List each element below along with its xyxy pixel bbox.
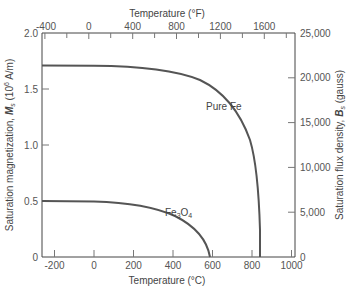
right-axis-ticks — [288, 78, 295, 212]
svg-text:15,000: 15,000 — [300, 117, 331, 128]
svg-text:200: 200 — [125, 260, 142, 271]
left-axis-ticks — [42, 89, 49, 201]
svg-text:10,000: 10,000 — [300, 162, 331, 173]
top-axis-labels: -400 0 400 800 1200 1600 — [36, 21, 276, 32]
pure-fe-label: Pure Fe — [206, 101, 242, 112]
svg-text:1.5: 1.5 — [24, 84, 38, 95]
bottom-axis-title: Temperature (°C) — [129, 275, 206, 286]
chart-canvas: -200 0 200 400 600 800 1000 Temperature … — [0, 0, 348, 288]
svg-text:800: 800 — [168, 21, 185, 32]
svg-text:400: 400 — [165, 260, 182, 271]
svg-text:2.0: 2.0 — [24, 28, 38, 39]
svg-text:800: 800 — [244, 260, 261, 271]
svg-text:400: 400 — [124, 21, 141, 32]
left-axis-labels: 0 0.5 1.0 1.5 2.0 — [24, 28, 38, 263]
svg-text:0.5: 0.5 — [24, 196, 38, 207]
svg-text:0: 0 — [32, 252, 38, 263]
svg-text:5,000: 5,000 — [300, 207, 325, 218]
svg-text:0: 0 — [91, 260, 97, 271]
bottom-axis-ticks — [55, 250, 292, 257]
svg-text:0: 0 — [86, 21, 92, 32]
svg-text:20,000: 20,000 — [300, 72, 331, 83]
bottom-axis-labels: -200 0 200 400 600 800 1000 — [44, 260, 303, 271]
top-axis-ticks — [45, 33, 286, 39]
svg-text:1.0: 1.0 — [24, 140, 38, 151]
pure-fe-curve — [42, 66, 260, 258]
svg-text:600: 600 — [204, 260, 221, 271]
svg-text:1600: 1600 — [253, 21, 276, 32]
right-axis-title: Saturation flux density, Bs (gauss) — [334, 70, 346, 220]
svg-text:0: 0 — [300, 252, 306, 263]
svg-text:1200: 1200 — [209, 21, 232, 32]
svg-text:-400: -400 — [36, 21, 56, 32]
svg-text:25,000: 25,000 — [300, 28, 331, 39]
fe3o4-label: Fe3O4 — [165, 207, 192, 219]
right-axis-labels: 0 5,000 10,000 15,000 20,000 25,000 — [300, 28, 331, 263]
left-axis-title: Saturation magnetization, Ms (106 A/m) — [3, 59, 16, 232]
svg-text:-200: -200 — [44, 260, 64, 271]
top-axis-title: Temperature (°F) — [129, 8, 205, 19]
